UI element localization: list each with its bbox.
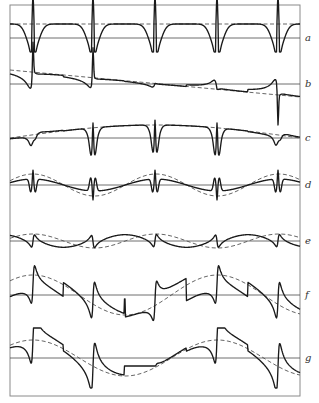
row-c: c (10, 120, 311, 155)
response-curve-f (10, 266, 300, 321)
row-label-d: d (305, 179, 311, 190)
row-label-g: g (305, 352, 311, 363)
row-label-b: b (305, 78, 311, 89)
row-e: e (10, 234, 311, 248)
row-b: b (10, 42, 311, 125)
row-f: f (10, 266, 311, 321)
row-d: d (10, 170, 311, 200)
row-g: g (10, 328, 311, 388)
row-label-e: e (305, 235, 311, 246)
figure-frame (10, 5, 300, 396)
row-label-a: a (305, 32, 311, 43)
response-curve-b (10, 42, 300, 125)
resonance-figure: abcdefg (0, 0, 319, 403)
row-a: a (10, 0, 311, 52)
row-label-f: f (304, 289, 311, 300)
row-label-c: c (305, 132, 311, 143)
figure-rows: abcdefg (10, 0, 311, 388)
response-curve-a (10, 0, 300, 52)
